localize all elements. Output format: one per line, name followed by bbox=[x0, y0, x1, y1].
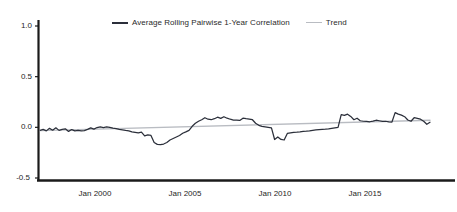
x-tick-label-3: Jan 2010 bbox=[245, 190, 305, 198]
legend-label-series: Average Rolling Pairwise 1-Year Correlat… bbox=[132, 18, 290, 27]
chart-plot-area bbox=[0, 0, 457, 212]
legend-entry-trend: Trend bbox=[306, 18, 347, 27]
legend-line-swatch-series bbox=[112, 22, 128, 24]
legend-entry-series: Average Rolling Pairwise 1-Year Correlat… bbox=[112, 18, 290, 27]
y-tick-label-1: 1.0 bbox=[6, 22, 32, 30]
legend-line-swatch-trend bbox=[306, 22, 322, 24]
y-tick-label-3: 0.0 bbox=[6, 123, 32, 131]
x-tick-label-4: Jan 2015 bbox=[335, 190, 395, 198]
y-tick-label-2: 0.5 bbox=[6, 73, 32, 81]
x-tick-label-1: Jan 2000 bbox=[65, 190, 125, 198]
x-tick-label-2: Jan 2005 bbox=[155, 190, 215, 198]
y-tick-label-4: -0.5 bbox=[4, 174, 30, 182]
legend-label-trend: Trend bbox=[326, 18, 347, 27]
chart-figure: 1.0 0.5 0.0 -0.5 Jan 2000 Jan 2005 Jan 2… bbox=[0, 0, 457, 212]
chart-legend: Average Rolling Pairwise 1-Year Correlat… bbox=[112, 18, 347, 27]
